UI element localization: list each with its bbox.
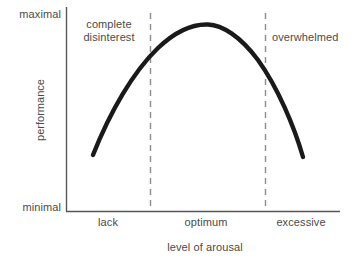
arousal-performance-chart: maximal minimal performance complete dis…	[0, 0, 352, 266]
x-tick-label-optimum: optimum	[185, 216, 228, 229]
annotation-complete-disinterest: complete disinterest	[68, 18, 150, 44]
annotation-overwhelmed: overwhelmed	[272, 31, 339, 44]
annotation-complete-disinterest-line1: complete	[68, 18, 150, 31]
y-axis-title: performance	[34, 79, 46, 141]
y-axis-min-label: minimal	[22, 201, 61, 214]
annotation-complete-disinterest-line2: disinterest	[68, 31, 150, 44]
performance-curve	[93, 24, 303, 157]
x-tick-label-lack: lack	[98, 216, 118, 229]
y-axis-max-label: maximal	[19, 8, 61, 21]
x-axis-title: level of arousal	[167, 241, 243, 254]
x-tick-label-excessive: excessive	[276, 216, 325, 229]
